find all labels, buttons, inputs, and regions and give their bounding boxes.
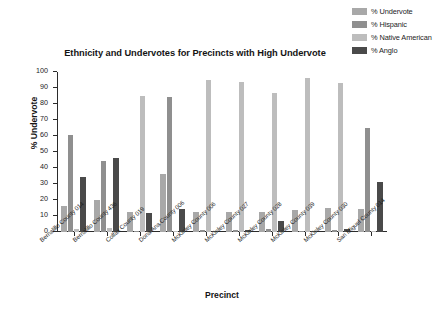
y-tick-label: 100	[36, 66, 48, 75]
bar[interactable]	[332, 230, 337, 232]
y-tick-label: 90	[40, 82, 48, 91]
bar[interactable]	[101, 161, 106, 232]
legend-item-label: % Undervote	[371, 7, 413, 16]
legend-swatch-icon	[352, 8, 367, 15]
bar[interactable]	[134, 231, 139, 232]
chart-title: Ethnicity and Undervotes for Precincts w…	[0, 48, 390, 58]
y-tick-label: 30	[40, 178, 48, 187]
bar[interactable]	[233, 230, 238, 232]
y-tick-label: 20	[40, 194, 48, 203]
x-tick	[371, 232, 372, 236]
y-tick-label: 10	[40, 210, 48, 219]
legend-item[interactable]: % Native American	[352, 32, 448, 43]
legend-item[interactable]: % Hispanic	[352, 19, 448, 30]
y-axis-title: % Undervote	[29, 97, 39, 150]
y-tick-label: 40	[40, 162, 48, 171]
y-tick-label: 70	[40, 114, 48, 123]
x-axis-title: Precinct	[57, 290, 387, 300]
y-tick-label: 60	[40, 130, 48, 139]
legend-item-label: % Hispanic	[371, 20, 407, 29]
legend-swatch-icon	[352, 21, 367, 28]
y-tick-label: 80	[40, 98, 48, 107]
legend-item[interactable]: % Undervote	[352, 6, 448, 17]
legend-item-label: % Native American	[371, 33, 432, 42]
bar[interactable]	[371, 231, 376, 232]
bar[interactable]	[113, 158, 118, 232]
y-tick-label: 50	[40, 146, 48, 155]
bar[interactable]	[299, 231, 304, 232]
legend-swatch-icon	[352, 34, 367, 41]
bar[interactable]	[266, 229, 271, 232]
bar[interactable]	[200, 230, 205, 232]
